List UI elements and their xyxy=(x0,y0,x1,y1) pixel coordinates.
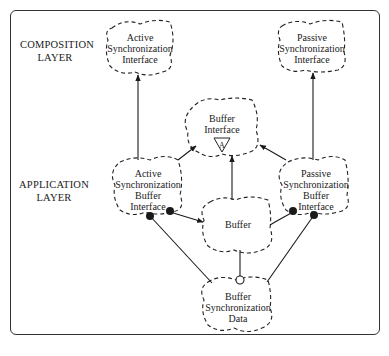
node-buffer: Buffer xyxy=(225,219,251,230)
edge-asbi-to-buffer xyxy=(170,212,203,222)
node-label-line: Synchronization xyxy=(115,179,181,190)
node-label-line: Buffer xyxy=(115,190,181,201)
edge-asbi-to-bi xyxy=(178,146,196,160)
node-passive-sync-interface: Passive Synchronization Interface xyxy=(279,32,345,65)
node-label-line: Interface xyxy=(204,124,240,135)
node-label-line: Buffer xyxy=(205,291,271,302)
node-label-line: Buffer xyxy=(204,113,240,124)
layer-label-line: LAYER xyxy=(18,191,90,204)
node-label-line: Buffer xyxy=(283,190,349,201)
node-label-line: Active xyxy=(115,168,181,179)
node-label-line: Data xyxy=(205,313,271,324)
svg-text:A: A xyxy=(219,141,225,150)
node-label-line: Synchronization xyxy=(283,179,349,190)
node-label-line: Interface xyxy=(107,54,173,65)
layer-label-line: APPLICATION xyxy=(18,178,90,191)
node-label-line: Buffer xyxy=(225,219,251,230)
node-active-sync-buffer-interface: Active Synchronization Buffer Interface xyxy=(115,168,181,212)
filled-dot-icon xyxy=(146,212,154,220)
abstract-class-icon: A xyxy=(214,138,230,152)
open-dot-icon xyxy=(236,276,244,284)
edge-psbi-to-bi xyxy=(260,145,286,160)
filled-dot-icon xyxy=(310,211,318,219)
node-passive-sync-buffer-interface: Passive Synchronization Buffer Interface xyxy=(283,168,349,212)
application-layer-label: APPLICATION LAYER xyxy=(18,178,90,204)
node-active-sync-interface: Active Synchronization Interface xyxy=(107,32,173,65)
node-label-line: Active xyxy=(107,32,173,43)
node-label-line: Interface xyxy=(115,201,181,212)
node-label-line: Passive xyxy=(279,32,345,43)
edge-psbi-to-buffer xyxy=(270,212,293,225)
node-label-line: Interface xyxy=(279,54,345,65)
node-buffer-interface: Buffer Interface xyxy=(204,113,240,135)
node-buffer-sync-data: Buffer Synchronization Data xyxy=(205,291,271,324)
node-label-line: Synchronization xyxy=(107,43,173,54)
node-label-line: Passive xyxy=(283,168,349,179)
layer-label-line: COMPOSITION xyxy=(20,38,90,51)
composition-layer-label: COMPOSITION LAYER xyxy=(20,38,90,64)
edge-psbi-to-bsd xyxy=(267,215,314,282)
node-label-line: Synchronization xyxy=(205,302,271,313)
node-label-line: Interface xyxy=(283,201,349,212)
node-label-line: Synchronization xyxy=(279,43,345,54)
layer-label-line: LAYER xyxy=(20,51,90,64)
